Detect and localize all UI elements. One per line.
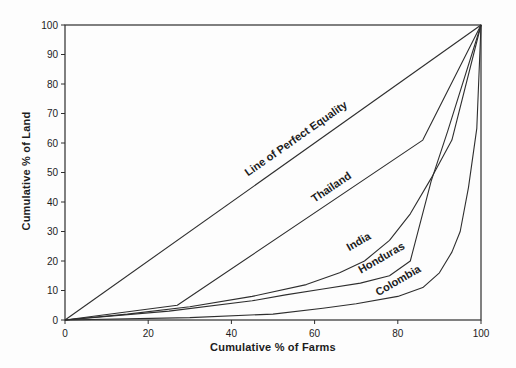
y-tick-label: 40 — [47, 197, 59, 208]
y-tick-label: 70 — [47, 108, 59, 119]
y-tick-label: 100 — [41, 20, 58, 31]
series-label-india: India — [344, 229, 373, 253]
y-tick-label: 50 — [47, 167, 59, 178]
y-tick-label: 90 — [47, 49, 59, 60]
x-tick-label: 0 — [62, 328, 68, 339]
series-label-colombia: Colombia — [373, 262, 423, 298]
series-line-line-of-perfect-equality — [65, 25, 481, 320]
y-tick-label: 0 — [52, 315, 58, 326]
series-label-line-of-perfect-equality: Line of Perfect Equality — [242, 98, 350, 178]
y-tick-label: 20 — [47, 256, 59, 267]
lorenz-curve-chart: 0204060801000102030405060708090100Line o… — [0, 0, 516, 368]
y-tick-label: 30 — [47, 226, 59, 237]
y-axis-title: Cumulative % of Land — [20, 106, 32, 236]
x-tick-label: 60 — [309, 328, 321, 339]
y-tick-label: 60 — [47, 138, 59, 149]
x-tick-label: 100 — [473, 328, 490, 339]
y-tick-label: 80 — [47, 79, 59, 90]
x-tick-label: 80 — [392, 328, 404, 339]
series-label-thailand: Thailand — [309, 169, 353, 204]
x-tick-label: 40 — [226, 328, 238, 339]
lorenz-curve-figure: 0204060801000102030405060708090100Line o… — [0, 0, 516, 368]
x-tick-label: 20 — [143, 328, 155, 339]
x-axis-title: Cumulative % of Farms — [65, 341, 481, 353]
y-tick-label: 10 — [47, 285, 59, 296]
